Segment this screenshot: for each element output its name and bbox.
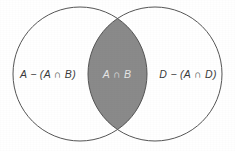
venn-diagram-figure: A − (A ∩ B) A ∩ B D − (A ∩ D): [0, 0, 235, 151]
venn-diagram-canvas: [0, 0, 235, 151]
